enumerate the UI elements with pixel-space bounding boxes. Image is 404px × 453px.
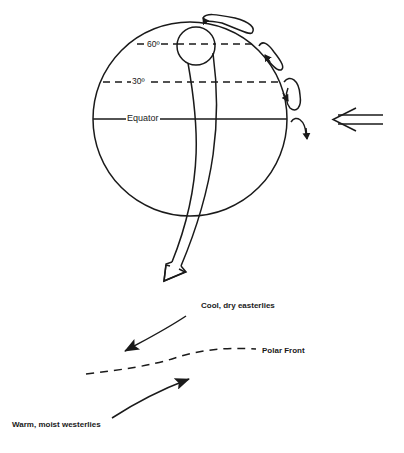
southward-flow-arrow <box>164 53 217 281</box>
trade-wind-curl <box>291 118 306 134</box>
latitude-30-label: 30º <box>131 77 146 86</box>
globe <box>93 22 287 216</box>
incoming-radiation-arrow <box>333 108 383 131</box>
front-diagram <box>86 316 256 418</box>
polar-front-label: Polar Front <box>262 347 305 355</box>
latitude-60-label: 60º <box>146 40 161 49</box>
cool-easterlies-arrow <box>125 316 186 351</box>
polar-vortex-circle <box>177 27 215 65</box>
circulation-cells <box>203 15 307 139</box>
cool-dry-easterlies-label: Cool, dry easterlies <box>201 302 275 310</box>
polar-front-line <box>86 348 256 374</box>
warm-moist-westerlies-label: Warm, moist westerlies <box>12 421 101 429</box>
circulation-diagram <box>0 0 404 453</box>
warm-westerlies-arrow <box>112 379 189 418</box>
equator-label: Equator <box>126 114 160 123</box>
